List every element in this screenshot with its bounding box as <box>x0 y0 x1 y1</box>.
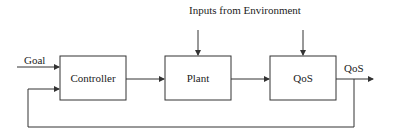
qos-block: QoS <box>270 56 336 100</box>
plant-block: Plant <box>165 56 231 100</box>
controller-label: Controller <box>70 72 116 84</box>
qos-block-label: QoS <box>293 72 313 84</box>
output-qos-label: QoS <box>344 62 364 74</box>
environment-inputs-label: Inputs from Environment <box>189 4 301 16</box>
controller-block: Controller <box>60 56 126 100</box>
plant-label: Plant <box>187 72 210 84</box>
feedback-control-diagram: Inputs from Environment Controller Plant… <box>0 0 393 137</box>
goal-label: Goal <box>24 54 45 66</box>
